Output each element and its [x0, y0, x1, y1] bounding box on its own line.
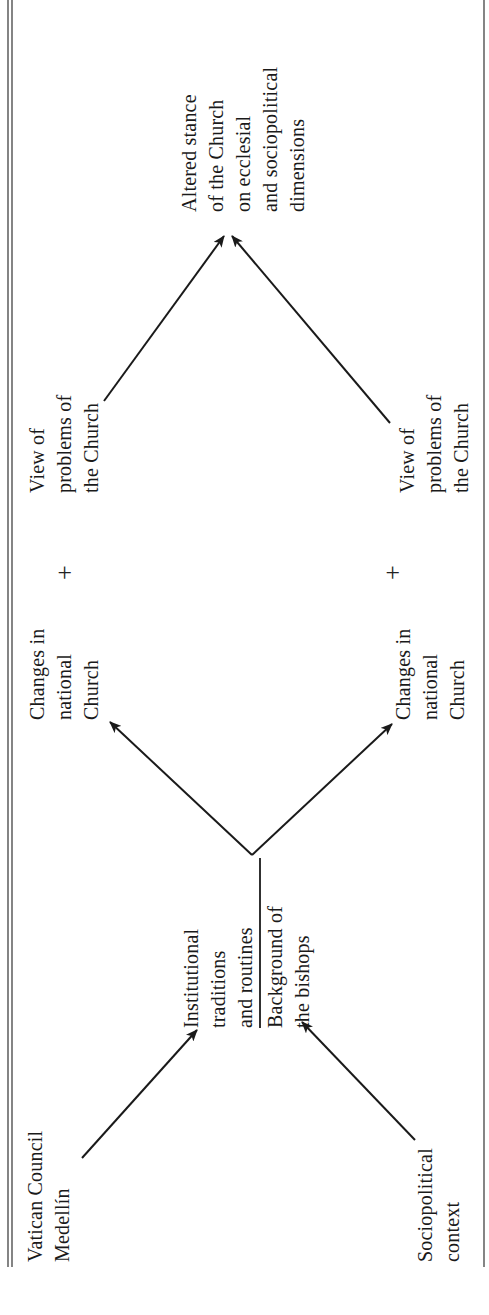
- node-line: Church: [444, 629, 471, 720]
- node-line: national: [417, 629, 444, 720]
- node-line: problems of: [51, 395, 78, 493]
- node-line: Background of: [262, 906, 289, 1028]
- arrow-view-bottom-to-altered-stance: [232, 236, 390, 423]
- node-line: problems of: [421, 395, 448, 493]
- node-changes-national-church-top: Changes in national Church: [24, 629, 105, 720]
- arrow-central-to-changes-bottom: [252, 724, 392, 855]
- plus-operator-bottom: +: [380, 565, 406, 580]
- node-line: Vatican Council: [22, 1131, 49, 1262]
- node-line: and sociopolitical: [257, 67, 284, 212]
- diagram-page: Vatican Council Medellín Sociopolitical …: [0, 0, 489, 1315]
- node-line: Changes in: [24, 629, 51, 720]
- node-line: the bishops: [289, 906, 316, 1028]
- node-line: View of: [394, 395, 421, 493]
- node-view-problems-top: View of problems of the Church: [24, 395, 105, 493]
- node-altered-stance: Altered stance of the Church on ecclesia…: [176, 67, 311, 212]
- node-view-problems-bottom: View of problems of the Church: [394, 395, 475, 493]
- node-line: Sociopolitical: [412, 1148, 439, 1262]
- node-line: on ecclesial: [230, 67, 257, 212]
- node-line: context: [439, 1148, 466, 1262]
- arrow-vatican-to-institutional: [82, 1030, 197, 1158]
- node-sociopolitical-context: Sociopolitical context: [412, 1148, 466, 1262]
- arrow-central-to-changes-top: [110, 722, 252, 855]
- node-institutional-traditions: Institutional traditions and routines: [178, 927, 259, 1028]
- frame-top-double-rule: [8, 0, 12, 1267]
- node-line: national: [51, 629, 78, 720]
- node-line: View of: [24, 395, 51, 493]
- node-line: Changes in: [390, 629, 417, 720]
- node-line: the Church: [448, 395, 475, 493]
- node-line: of the Church: [203, 67, 230, 212]
- arrow-view-top-to-altered-stance: [104, 236, 224, 401]
- arrow-sociopolitical-to-background: [302, 1022, 415, 1140]
- node-line: Institutional: [178, 927, 205, 1028]
- node-line: the Church: [78, 395, 105, 493]
- node-line: traditions: [205, 927, 232, 1028]
- node-line: and routines: [232, 927, 259, 1028]
- node-line: dimensions: [284, 67, 311, 212]
- node-line: Church: [78, 629, 105, 720]
- node-line: Medellín: [49, 1131, 76, 1262]
- node-background-bishops: Background of the bishops: [262, 906, 316, 1028]
- node-line: Altered stance: [176, 67, 203, 212]
- plus-operator-top: +: [52, 565, 78, 580]
- node-changes-national-church-bottom: Changes in national Church: [390, 629, 471, 720]
- node-vatican-council: Vatican Council Medellín: [22, 1131, 76, 1262]
